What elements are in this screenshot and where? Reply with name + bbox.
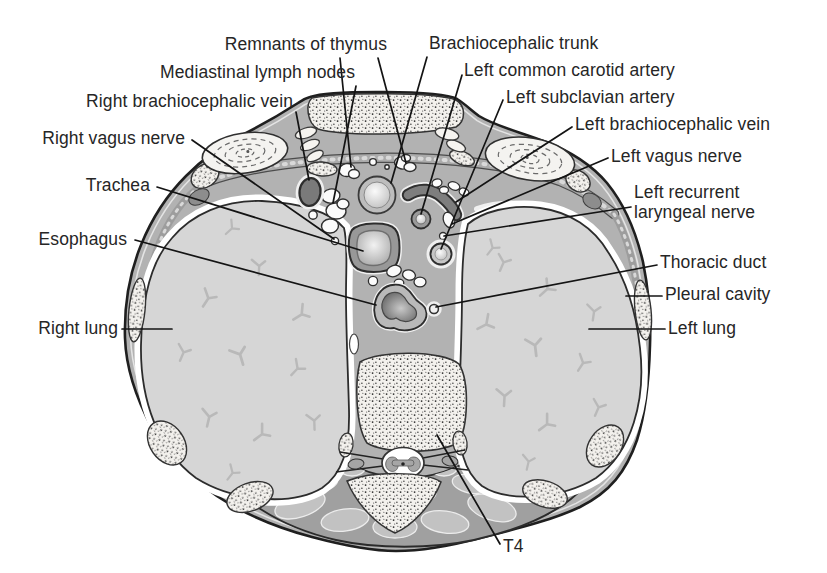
label-left-subclavian-artery: Left subclavian artery <box>506 88 675 108</box>
label-left-common-carotid-artery: Left common carotid artery <box>464 61 675 81</box>
label-left-brachiocephalic-vein: Left brachiocephalic vein <box>575 115 770 135</box>
figure-canvas: Remnants of thymus Mediastinal lymph nod… <box>0 0 827 573</box>
brachiocephalic-trunk-shape <box>359 177 396 214</box>
label-remnants-of-thymus: Remnants of thymus <box>225 35 387 55</box>
label-right-brachiocephalic-vein: Right brachiocephalic vein <box>86 92 293 112</box>
trachea-shape <box>349 223 400 272</box>
vertebral-body <box>357 353 467 451</box>
label-thoracic-duct: Thoracic duct <box>660 253 766 273</box>
prevertebral-vessel <box>350 334 359 354</box>
label-esophagus: Esophagus <box>39 230 127 250</box>
thoracic-duct-shape <box>428 303 441 316</box>
label-trachea: Trachea <box>86 176 150 196</box>
left-subclavian-artery-shape <box>428 241 454 267</box>
label-t4: T4 <box>503 537 524 557</box>
label-right-lung: Right lung <box>38 319 118 339</box>
label-left-lung: Left lung <box>668 319 736 339</box>
label-left-vagus-nerve: Left vagus nerve <box>611 147 742 167</box>
label-brachiocephalic-trunk: Brachiocephalic trunk <box>429 34 598 54</box>
label-mediastinal-lymph-nodes: Mediastinal lymph nodes <box>160 63 355 83</box>
label-pleural-cavity: Pleural cavity <box>665 285 770 305</box>
central-canal-dot <box>401 462 405 466</box>
label-right-vagus-nerve: Right vagus nerve <box>42 129 185 149</box>
label-left-recurrent-laryngeal-nerve: Left recurrent laryngeal nerve <box>634 183 802 222</box>
